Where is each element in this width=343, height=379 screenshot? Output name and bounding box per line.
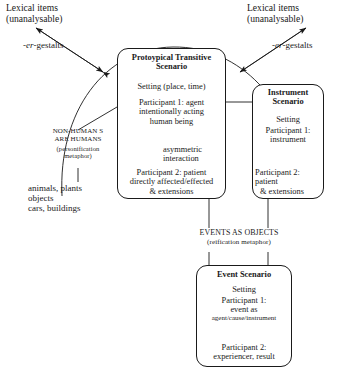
asymmetric-line1: asymmetric [163,145,225,154]
instrument-title-line1: Instrument [254,88,322,97]
er-gestalts-right-suffix: -gestalts [283,40,313,50]
instrument-title: Instrument Scenario [254,88,322,107]
asymmetric-interaction-label: asymmetric interaction [163,145,225,164]
er-gestalts-right-italic: er [275,40,283,50]
prototypical-p2-line2: directly affected/effected [117,177,226,186]
reification-metaphor-line: (reification metaphor) [174,239,304,247]
instrument-participant2: Participant 2: patient & extensions [255,168,325,196]
event-p2-line1: Participant 2: [196,343,292,352]
event-p2-line2: experiencer, result [196,352,292,361]
metaphor-line3: (personification [30,145,126,152]
prototypical-p1-line3: human being [118,117,225,126]
personification-metaphor-label: NON-HUMAN S ARE HUMANS (personification … [30,128,126,159]
instrument-p1-line2: instrument [253,135,323,144]
examples-line3: cars, buildings [28,203,138,213]
prototypical-p2-line1: Participant 2: patient [117,168,226,177]
lexical-items-left-line2: (unanalysable) [6,14,106,25]
event-participant1: Participant 1: event as agent/cause/inst… [197,296,291,323]
instrument-participant1: Participant 1: instrument [253,126,323,145]
er-gestalts-right-label: -er-gestalts [272,40,313,50]
prototypical-p1-line2: intentionally acting [118,107,225,116]
prototypical-participant1: Participant 1: agent intentionally actin… [118,98,225,126]
event-title: Event Scenario [198,270,290,279]
events-as-objects-line1: EVENTS AS OBJECTS [174,229,304,238]
event-participant2: Participant 2: experiencer, result [196,343,292,362]
prototypical-title-line1: Protoypical Transitive [119,53,224,62]
lexical-items-right-label: Lexical items (unanalysable) [247,3,343,24]
prototypical-participant2: Participant 2: patient directly affected… [117,168,226,196]
event-setting: Setting [198,285,290,294]
prototypical-title: Protoypical Transitive Scenario [119,53,224,72]
asymmetric-line2: interaction [163,154,225,163]
prototypical-p2-line3: & extensions [117,187,226,196]
metaphor-line4: metaphor) [30,152,126,159]
diagram-canvas: Lexical items (unanalysable) -er-gestalt… [0,0,343,379]
er-gestalts-left-label: -er-gestalts [23,40,64,50]
prototypical-title-line2: Scenario [119,62,224,71]
er-gestalts-left-italic: er [26,40,34,50]
er-gestalts-left-suffix: -gestalts [34,40,64,50]
instrument-p2-line1: Participant 2: [255,168,325,177]
instrument-p2-line2: patient [255,177,325,186]
lexical-items-left-label: Lexical items (unanalysable) [6,3,106,24]
event-p1-line3: agent/cause/instrument [197,315,291,323]
prototypical-setting: Setting (place, time) [119,82,224,91]
instrument-p1-line1: Participant 1: [253,126,323,135]
instrument-p2-line3: & extensions [255,187,325,196]
lexical-items-right-line2: (unanalysable) [247,14,343,25]
instrument-setting: Setting [254,115,322,124]
metaphor-line2: ARE HUMANS [30,136,126,144]
prototypical-p1-line1: Participant 1: agent [118,98,225,107]
events-as-objects-label: EVENTS AS OBJECTS (reification metaphor) [174,229,304,247]
instrument-title-line2: Scenario [254,97,322,106]
event-p1-line1: Participant 1: [197,296,291,305]
